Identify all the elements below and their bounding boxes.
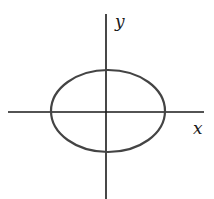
x-axis-label: x xyxy=(193,118,203,138)
y-axis-label: y xyxy=(114,11,125,31)
ellipse xyxy=(51,70,165,152)
ellipse-diagram: y x xyxy=(0,0,214,199)
